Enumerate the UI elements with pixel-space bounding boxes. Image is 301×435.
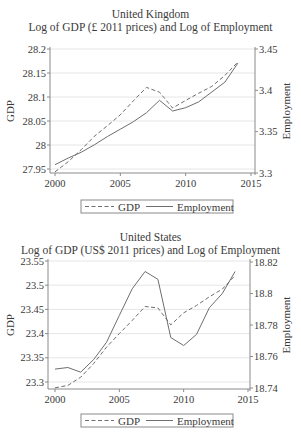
legend: GDPEmployment (81, 200, 234, 213)
y2-tick-label: 18.82 (254, 257, 278, 268)
y2-tick-label: 3.45 (259, 44, 277, 55)
x-tick-label: 2005 (109, 394, 130, 405)
us-chart: United States Log of GDP (US$ 2011 price… (0, 218, 301, 435)
x-tick-label: 2015 (241, 178, 262, 189)
uk-chart: United Kingdom Log of GDP (£ 2011 prices… (0, 0, 301, 218)
y-tick-label: 23.35 (20, 352, 44, 363)
gridlines (50, 49, 255, 169)
series-gdp (55, 62, 238, 172)
y-tick-label: 28.05 (22, 116, 46, 127)
legend-employment-label: Employment (177, 415, 234, 427)
x-tick-label: 2010 (175, 178, 196, 189)
gridlines (48, 261, 250, 382)
legend-employment-label: Employment (177, 201, 234, 213)
series-employment (55, 63, 238, 165)
y-tick-label: 28.15 (22, 68, 46, 79)
x-tick-label: 2015 (238, 394, 259, 405)
y-tick-label: 28 (36, 140, 47, 151)
y-tick-label: 23.5 (26, 280, 44, 291)
y-tick-label: 28.2 (28, 44, 46, 55)
x-tick-label: 2000 (45, 178, 66, 189)
y-axis-title: GDP (4, 100, 16, 122)
x-tick-label: 2000 (45, 394, 66, 405)
y2-tick-label: 18.76 (254, 351, 278, 362)
y-tick-label: 23.4 (26, 328, 45, 339)
us-plot: 23.323.3523.423.4523.523.5518.7418.7618.… (0, 218, 301, 435)
x-tick-label: 2005 (110, 178, 131, 189)
y2-tick-label: 18.8 (254, 288, 272, 299)
y2-tick-label: 18.74 (254, 383, 278, 394)
y-tick-label: 27.95 (22, 164, 46, 175)
legend: GDPEmployment (81, 414, 234, 427)
y-axis-title: GDP (4, 314, 16, 336)
y2-axis-title: Employment (280, 297, 292, 354)
y2-tick-label: 3.35 (259, 126, 277, 137)
series-employment (55, 272, 235, 373)
legend-gdp-label: GDP (118, 415, 140, 427)
y2-tick-label: 3.4 (259, 85, 273, 96)
y2-axis-title: Employment (280, 83, 292, 140)
y-tick-label: 23.3 (26, 377, 44, 388)
y-tick-label: 23.45 (20, 304, 44, 315)
y-tick-label: 23.55 (20, 256, 44, 267)
y-tick-label: 28.1 (28, 92, 46, 103)
y2-tick-label: 18.78 (254, 320, 278, 331)
uk-plot: 27.952828.0528.128.1528.23.33.353.43.452… (0, 0, 301, 218)
x-tick-label: 2010 (173, 394, 194, 405)
legend-gdp-label: GDP (118, 201, 140, 213)
y2-tick-label: 3.3 (259, 168, 272, 179)
